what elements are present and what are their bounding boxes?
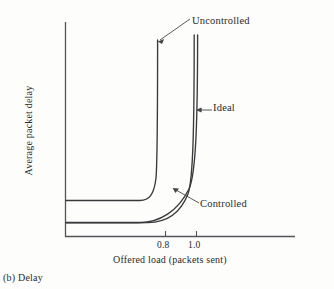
y-axis-label: Average packet delay <box>23 66 34 196</box>
leader-line-uncontrolled <box>160 19 190 40</box>
annotation-label-controlled: Controlled <box>200 198 247 209</box>
curve-controlled <box>66 35 198 223</box>
curve-uncontrolled <box>66 40 158 201</box>
x-tick-label-0.8: 0.8 <box>157 240 169 250</box>
arrowhead-controlled <box>173 188 179 193</box>
annotation-label-ideal: Ideal <box>213 102 235 113</box>
annotation-label-uncontrolled: Uncontrolled <box>192 15 250 26</box>
figure-delay-chart: Uncontrolled Ideal Controlled 0.8 1.0 Of… <box>0 0 334 289</box>
figure-caption: (b) Delay <box>3 272 43 283</box>
curve-ideal <box>66 35 194 223</box>
x-axis-label: Offered load (packets sent) <box>113 254 227 265</box>
x-tick-label-1.0: 1.0 <box>188 240 200 250</box>
